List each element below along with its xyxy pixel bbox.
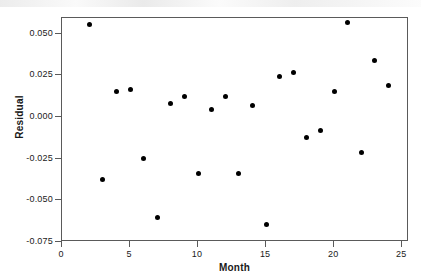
data-point bbox=[318, 128, 323, 133]
data-point bbox=[277, 74, 282, 79]
x-axis-tick bbox=[265, 241, 266, 247]
data-point bbox=[250, 103, 255, 108]
x-axis-tick bbox=[61, 241, 62, 247]
data-point bbox=[264, 222, 269, 227]
x-axis-tick bbox=[401, 241, 402, 247]
residual-vs-month-scatter-chart: 0.0500.0250.000-0.025-0.050-0.075 051015… bbox=[0, 0, 421, 279]
scan-artifact-band bbox=[0, 0, 421, 7]
data-point bbox=[114, 89, 119, 94]
data-point bbox=[87, 22, 92, 27]
y-axis-tick-label: -0.025 bbox=[0, 154, 53, 163]
y-axis-tick-label: -0.050 bbox=[0, 195, 53, 204]
data-point bbox=[182, 94, 187, 99]
data-point bbox=[372, 58, 377, 63]
x-axis-tick-label: 15 bbox=[245, 250, 285, 259]
data-point bbox=[332, 89, 337, 94]
x-axis-tick-label: 10 bbox=[177, 250, 217, 259]
data-point bbox=[223, 94, 228, 99]
x-axis-tick bbox=[197, 241, 198, 247]
y-axis-tick-label: -0.075 bbox=[0, 237, 53, 246]
data-point bbox=[128, 87, 133, 92]
y-axis-tick-label: 0.000 bbox=[0, 112, 53, 121]
data-point bbox=[304, 135, 309, 140]
x-axis-tick-label: 0 bbox=[41, 250, 81, 259]
x-axis-tick bbox=[333, 241, 334, 247]
data-point bbox=[236, 171, 241, 176]
y-axis-tick-label: 0.025 bbox=[0, 70, 53, 79]
data-point bbox=[168, 101, 173, 106]
data-point bbox=[155, 215, 160, 220]
x-axis-tick bbox=[129, 241, 130, 247]
data-point bbox=[386, 83, 391, 88]
x-axis-tick-label: 25 bbox=[381, 250, 421, 259]
plot-area bbox=[61, 17, 408, 241]
data-point bbox=[359, 150, 364, 155]
y-axis-title: Residual bbox=[15, 77, 25, 157]
data-point bbox=[141, 156, 146, 161]
x-axis-tick-label: 5 bbox=[109, 250, 149, 259]
data-point bbox=[209, 107, 214, 112]
data-point bbox=[291, 70, 296, 75]
x-axis-tick-label: 20 bbox=[313, 250, 353, 259]
y-axis-tick-label: 0.050 bbox=[0, 29, 53, 38]
x-axis-title: Month bbox=[61, 263, 408, 273]
data-point bbox=[100, 177, 105, 182]
data-point bbox=[196, 171, 201, 176]
data-point bbox=[345, 20, 350, 25]
